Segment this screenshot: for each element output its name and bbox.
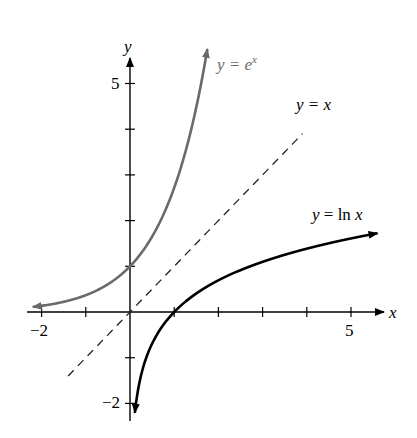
x-tick-label-max: 5 <box>345 321 354 340</box>
exp-curve-label: y = ex <box>215 53 257 74</box>
ln-curve-label: y = ln x <box>310 205 363 224</box>
x-axis-label: x <box>388 303 397 322</box>
ln-curve <box>135 233 378 413</box>
identity-line-label: y = x <box>294 95 332 114</box>
y-axis-label: y <box>122 37 132 56</box>
x-tick-label-min: −2 <box>30 321 48 340</box>
y-tick-label-max: 5 <box>111 74 120 93</box>
identity-line <box>68 134 302 376</box>
function-graph: x y −2 5 5 −2 y = ex y = x y = ln x <box>0 0 417 438</box>
y-tick-label-min: −2 <box>102 393 120 412</box>
exp-curve <box>33 49 208 307</box>
